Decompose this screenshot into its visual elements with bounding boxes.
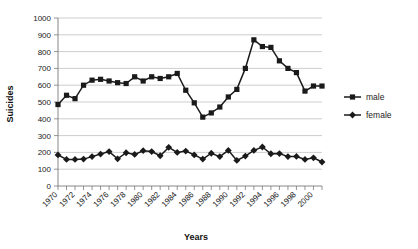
data-point-male-1997 bbox=[285, 66, 290, 71]
chart-legend: malefemale bbox=[344, 92, 392, 120]
legend-item-male[interactable]: male bbox=[344, 92, 385, 102]
data-point-male-1988 bbox=[209, 110, 214, 115]
data-point-male-1994 bbox=[260, 44, 265, 49]
legend-marker-male bbox=[350, 94, 355, 99]
data-point-female-1985 bbox=[182, 148, 189, 155]
x-tick-label-1998: 1998 bbox=[279, 190, 298, 209]
data-point-male-1990 bbox=[226, 94, 231, 99]
data-point-female-1981 bbox=[148, 148, 155, 155]
y-tick-label-1000: 1000 bbox=[33, 14, 51, 23]
x-tick-label-1978: 1978 bbox=[109, 190, 128, 209]
y-tick-labels: 01002003004005006007008009001000 bbox=[33, 14, 58, 191]
x-tick-label-2000: 2000 bbox=[296, 190, 315, 209]
data-point-female-1980 bbox=[140, 147, 147, 154]
legend-label-male: male bbox=[366, 92, 385, 102]
y-tick-label-700: 700 bbox=[38, 64, 52, 73]
x-tick-label-1970: 1970 bbox=[40, 190, 59, 209]
data-point-male-1974 bbox=[89, 78, 94, 83]
data-point-male-1976 bbox=[107, 78, 112, 83]
data-point-female-1984 bbox=[174, 149, 181, 156]
data-point-male-1989 bbox=[217, 104, 222, 109]
x-tick-label-1990: 1990 bbox=[211, 190, 230, 209]
data-point-male-1995 bbox=[268, 45, 273, 50]
data-point-female-1971 bbox=[63, 156, 70, 163]
y-tick-label-0: 0 bbox=[47, 182, 52, 191]
data-point-male-1981 bbox=[149, 74, 154, 79]
y-tick-label-400: 400 bbox=[38, 115, 52, 124]
x-tick-label-1996: 1996 bbox=[262, 190, 281, 209]
y-tick-label-300: 300 bbox=[38, 132, 52, 141]
data-point-male-1985 bbox=[183, 88, 188, 93]
data-point-male-1982 bbox=[158, 76, 163, 81]
x-tick-label-1976: 1976 bbox=[92, 190, 111, 209]
data-point-female-1975 bbox=[97, 151, 104, 158]
y-tick-label-800: 800 bbox=[38, 48, 52, 57]
data-point-female-1996 bbox=[276, 150, 283, 157]
series-female bbox=[55, 144, 326, 166]
y-axis-title: Suicides bbox=[5, 85, 15, 122]
data-series-layer bbox=[55, 37, 326, 165]
data-point-male-1980 bbox=[141, 78, 146, 83]
gridlines bbox=[58, 18, 322, 169]
data-point-male-2000 bbox=[311, 83, 316, 88]
data-point-male-1975 bbox=[98, 77, 103, 82]
data-point-female-1998 bbox=[293, 153, 300, 160]
data-point-male-1972 bbox=[72, 96, 77, 101]
data-point-male-1977 bbox=[115, 80, 120, 85]
chart-container: 01002003004005006007008009001000 1970197… bbox=[0, 0, 418, 249]
data-point-female-1979 bbox=[131, 151, 138, 158]
legend-item-female[interactable]: female bbox=[344, 110, 392, 120]
data-point-male-1991 bbox=[234, 87, 239, 92]
data-point-male-1986 bbox=[192, 100, 197, 105]
data-point-male-1998 bbox=[294, 70, 299, 75]
legend-label-female: female bbox=[366, 110, 392, 120]
x-axis-title: Years bbox=[184, 232, 208, 242]
data-point-female-1997 bbox=[285, 153, 292, 160]
data-point-female-2001 bbox=[319, 159, 326, 166]
data-point-female-2000 bbox=[310, 154, 317, 161]
x-tick-label-1980: 1980 bbox=[126, 190, 145, 209]
line-chart: 01002003004005006007008009001000 1970197… bbox=[0, 0, 418, 249]
data-point-male-1978 bbox=[124, 81, 129, 86]
data-point-male-1979 bbox=[132, 74, 137, 79]
x-tick-label-1988: 1988 bbox=[194, 190, 213, 209]
x-tick-label-1982: 1982 bbox=[143, 190, 162, 209]
y-tick-label-600: 600 bbox=[38, 81, 52, 90]
data-point-male-1970 bbox=[55, 102, 60, 107]
data-point-male-2001 bbox=[319, 83, 324, 88]
legend-marker-female bbox=[349, 112, 356, 119]
y-tick-label-200: 200 bbox=[38, 148, 52, 157]
data-point-male-1992 bbox=[243, 66, 248, 71]
y-tick-label-100: 100 bbox=[38, 165, 52, 174]
series-line-female bbox=[58, 147, 322, 162]
data-point-male-1996 bbox=[277, 58, 282, 63]
x-tick-label-1984: 1984 bbox=[160, 190, 179, 209]
y-tick-label-900: 900 bbox=[38, 31, 52, 40]
y-tick-label-500: 500 bbox=[38, 98, 52, 107]
data-point-female-1999 bbox=[302, 156, 309, 163]
data-point-male-1973 bbox=[81, 83, 86, 88]
data-point-female-1974 bbox=[89, 153, 96, 160]
x-tick-label-1992: 1992 bbox=[228, 190, 247, 209]
x-tick-label-1972: 1972 bbox=[57, 190, 76, 209]
data-point-male-1971 bbox=[64, 93, 69, 98]
data-point-male-1993 bbox=[251, 37, 256, 42]
x-tick-label-1974: 1974 bbox=[75, 190, 94, 209]
x-tick-label-1994: 1994 bbox=[245, 190, 264, 209]
data-point-female-1973 bbox=[80, 156, 87, 163]
data-point-male-1984 bbox=[175, 71, 180, 76]
data-point-male-1999 bbox=[302, 88, 307, 93]
series-male bbox=[55, 37, 324, 119]
data-point-female-1972 bbox=[72, 156, 79, 163]
x-tickmarks bbox=[58, 186, 322, 190]
data-point-male-1987 bbox=[200, 115, 205, 120]
x-tick-label-1986: 1986 bbox=[177, 190, 196, 209]
x-tick-labels: 1970197219741976197819801982198419861988… bbox=[40, 190, 315, 209]
data-point-male-1983 bbox=[166, 74, 171, 79]
